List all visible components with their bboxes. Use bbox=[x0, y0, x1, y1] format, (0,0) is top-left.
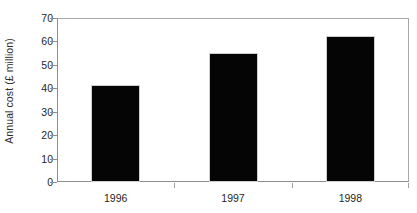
bar-chart-figure: Annual cost (£ million) 706050403020100 … bbox=[0, 0, 417, 213]
x-axis-tick-label: 1997 bbox=[221, 192, 244, 204]
y-axis-tick-mark bbox=[50, 88, 57, 89]
bar bbox=[209, 53, 258, 182]
y-axis-tick-mark bbox=[50, 182, 57, 183]
y-axis-tick-label: 40 bbox=[20, 83, 53, 93]
bar bbox=[91, 85, 140, 182]
y-axis-tick-mark bbox=[50, 18, 57, 19]
y-axis-tick-label: 30 bbox=[20, 107, 53, 117]
y-axis-tick-label: 60 bbox=[20, 36, 53, 46]
x-axis-tick-marks bbox=[57, 183, 409, 189]
bar bbox=[326, 36, 375, 182]
x-axis-tick-mark bbox=[408, 183, 409, 188]
y-axis-tick-mark bbox=[50, 135, 57, 136]
y-axis-tick-label: 20 bbox=[20, 130, 53, 140]
x-axis-tick-mark bbox=[292, 183, 293, 188]
x-axis-tick-label: 1996 bbox=[104, 192, 127, 204]
y-axis-tick-mark bbox=[50, 65, 57, 66]
y-axis-tick-mark bbox=[50, 159, 57, 160]
y-axis-tick-labels: 706050403020100 bbox=[20, 0, 53, 213]
y-axis-tick-label: 50 bbox=[20, 60, 53, 70]
y-axis-tick-mark bbox=[50, 112, 57, 113]
x-axis-tick-mark bbox=[174, 183, 175, 188]
y-axis-tick-label: 0 bbox=[20, 177, 53, 187]
y-axis-tick-label: 10 bbox=[20, 154, 53, 164]
y-axis-tick-label: 70 bbox=[20, 13, 53, 23]
bars-layer bbox=[57, 18, 409, 182]
y-axis-title: Annual cost (£ million) bbox=[0, 0, 18, 182]
x-axis-tick-labels: 199619971998 bbox=[57, 192, 409, 208]
y-axis-title-label: Annual cost (£ million) bbox=[3, 38, 15, 144]
y-axis-tick-mark bbox=[50, 41, 57, 42]
x-axis-tick-label: 1998 bbox=[339, 192, 362, 204]
